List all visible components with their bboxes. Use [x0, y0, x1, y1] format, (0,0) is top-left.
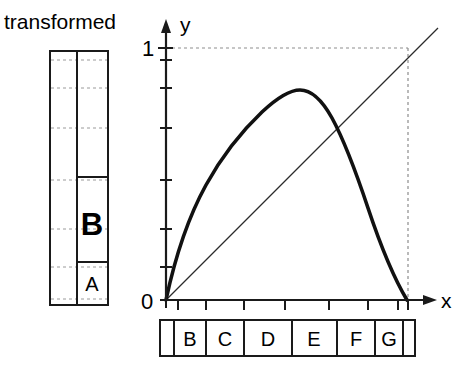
left-bar-cell-b: B: [81, 207, 103, 242]
plot-area: 1 0 y x: [141, 13, 452, 314]
x-axis-interval-bar: B C D E F G: [160, 320, 415, 356]
bottom-bar-outline: [160, 320, 415, 356]
y-axis-arrowhead: [161, 19, 171, 33]
figure-canvas: transformed B A: [0, 0, 455, 365]
x-axis-arrowhead: [423, 295, 437, 305]
y-axis-title: y: [180, 13, 191, 36]
x-axis-title: x: [441, 289, 452, 312]
bottom-bar-cell-b: B: [183, 328, 196, 350]
y-axis-label-zero: 0: [141, 289, 153, 314]
transform-curve: [166, 90, 407, 300]
bottom-bar-cell-g: G: [381, 328, 397, 350]
bottom-bar-cell-d: D: [261, 328, 275, 350]
y-axis-label-one: 1: [142, 36, 154, 61]
left-bar-cell-a: A: [85, 273, 99, 295]
page-title: transformed: [4, 10, 116, 33]
figure-root: transformed B A: [0, 0, 455, 365]
transformed-axis-bar: B A: [50, 51, 108, 305]
bottom-bar-cell-e: E: [307, 328, 320, 350]
bottom-bar-cell-c: C: [218, 328, 232, 350]
bottom-bar-cell-f: F: [350, 328, 362, 350]
x-axis-ticks: [166, 294, 408, 310]
identity-line: [166, 28, 438, 300]
